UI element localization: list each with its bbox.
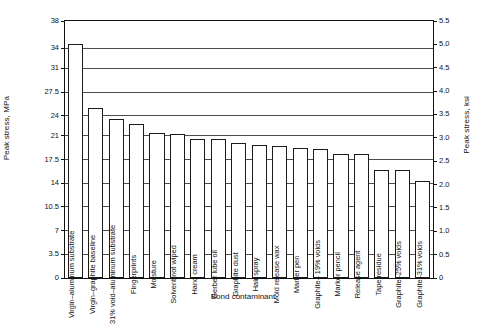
y-tick-right xyxy=(433,254,437,255)
y-tick-left xyxy=(61,21,65,22)
bar: Marker pencil xyxy=(333,154,348,278)
bar-category-label: Tape residue xyxy=(374,253,381,295)
y-tick-left xyxy=(61,68,65,69)
bar: Graphite dust xyxy=(231,143,246,278)
bar: Virgin–aluminum substrate xyxy=(68,44,83,278)
bar-category-label: Fingerprints xyxy=(129,254,136,293)
y-tick-right xyxy=(433,278,437,279)
y-tick-right xyxy=(433,21,437,22)
y-tick-label-left: 10.5 xyxy=(44,203,59,211)
y-tick-left xyxy=(61,183,65,184)
y-tick-left xyxy=(61,254,65,255)
y-tick-left xyxy=(61,159,65,160)
y-tick-right xyxy=(433,231,437,232)
bar-category-label: Virgin–aluminum substrate xyxy=(68,230,75,317)
y-tick-label-left: 27.5 xyxy=(44,88,59,96)
bar-category-label: Gerber lube oil xyxy=(211,250,218,298)
bar-category-label: 31% void–aluminum substrate xyxy=(109,224,116,323)
bar-category-label: Mold release wax xyxy=(272,245,279,303)
y-tick-left xyxy=(61,230,65,231)
y-tick-right xyxy=(433,114,437,115)
bar-category-label: Graphite dust xyxy=(231,252,238,296)
y-tick-right xyxy=(433,184,437,185)
y-axis-title-left: Peak stress, MPa xyxy=(2,96,11,160)
bar: Graphite– 19% voids xyxy=(313,149,328,278)
bar: 31% void–aluminum substrate xyxy=(109,119,124,278)
y-tick-label-left: 21 xyxy=(51,132,59,140)
plot-area: Virgin–aluminum substrateVirgin–graphite… xyxy=(64,20,434,279)
bars-layer: Virgin–aluminum substrateVirgin–graphite… xyxy=(65,21,433,278)
y-tick-label-left: 34 xyxy=(51,44,59,52)
y-tick-left xyxy=(61,92,65,93)
y-tick-right xyxy=(433,207,437,208)
y-tick-label-left: 17.5 xyxy=(44,156,59,164)
bar: Graphite–31% voids xyxy=(415,181,430,278)
bar: Moisture xyxy=(149,133,164,278)
y-tick-label-right: 0.5 xyxy=(439,251,449,259)
bar-category-label: Graphite– 19% voids xyxy=(313,240,320,309)
y-tick-label-left: 38 xyxy=(51,17,59,25)
bar-category-label: Release agent xyxy=(354,250,361,298)
y-tick-label-right: 3.5 xyxy=(439,110,449,118)
bar-category-label: Marker pencil xyxy=(334,252,341,296)
bar-category-label: Solvent not wiped xyxy=(170,245,177,303)
y-tick-left xyxy=(61,48,65,49)
y-tick-label-right: 0 xyxy=(439,274,443,282)
y-tick-right xyxy=(433,161,437,162)
y-tick-label-right: 4.0 xyxy=(439,87,449,95)
bar-category-label: Moisture xyxy=(150,260,157,288)
bar: Tape residue xyxy=(374,170,389,278)
bar-category-label: Virgin–graphite baseline xyxy=(88,234,95,313)
bar: Solvent not wiped xyxy=(170,134,185,278)
y-tick-label-left: 24 xyxy=(51,112,59,120)
bar-category-label: Graphite–25% voids xyxy=(395,241,402,308)
y-tick-label-right: 5.5 xyxy=(439,17,449,25)
y-tick-label-right: 4.5 xyxy=(439,64,449,72)
bar: Release agent xyxy=(354,154,369,278)
bar: Hair spray xyxy=(252,145,267,278)
bar: Mold release wax xyxy=(272,146,287,278)
bar-category-label: Hand cream xyxy=(190,254,197,294)
bar-category-label: Graphite–31% voids xyxy=(415,241,422,308)
y-axis-title-right: Peak stress, ksi xyxy=(462,96,471,154)
y-tick-right xyxy=(433,137,437,138)
y-tick-label-left: 3.5 xyxy=(49,250,59,258)
y-tick-left xyxy=(61,135,65,136)
y-tick-label-right: 3.0 xyxy=(439,134,449,142)
y-tick-label-left: 31 xyxy=(51,64,59,72)
y-tick-label-right: 1.5 xyxy=(439,204,449,212)
y-tick-label-right: 2.0 xyxy=(439,181,449,189)
bar: Virgin–graphite baseline xyxy=(88,108,103,278)
y-tick-right xyxy=(433,44,437,45)
y-tick-label-left: 14 xyxy=(51,179,59,187)
bar-category-label: Hair spray xyxy=(252,257,259,291)
y-tick-left xyxy=(61,278,65,279)
bar-category-label: Marker pen xyxy=(293,255,300,292)
bar: Marker pen xyxy=(293,148,308,278)
bar: Gerber lube oil xyxy=(211,139,226,278)
y-tick-label-right: 2.5 xyxy=(439,157,449,165)
y-tick-label-right: 5.0 xyxy=(439,40,449,48)
y-tick-left xyxy=(61,206,65,207)
y-tick-label-left: 7 xyxy=(55,227,59,235)
y-tick-left xyxy=(61,115,65,116)
y-tick-label-left: 0 xyxy=(55,274,59,282)
bar: Fingerprints xyxy=(129,124,144,278)
y-tick-label-right: 1.0 xyxy=(439,227,449,235)
y-tick-right xyxy=(433,67,437,68)
y-tick-right xyxy=(433,91,437,92)
bar: Graphite–25% voids xyxy=(395,170,410,278)
bar: Hand cream xyxy=(190,139,205,278)
